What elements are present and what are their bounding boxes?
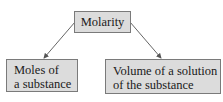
moles-line-1: Moles of — [14, 63, 77, 77]
moles-line-2: a substance — [14, 77, 77, 91]
volume-line-2: of the substance — [113, 78, 220, 92]
moles-node: Moles of a substance — [6, 59, 78, 92]
volume-node: Volume of a solution of the substance — [105, 59, 221, 94]
arrow-to-volume — [130, 22, 161, 58]
volume-line-1: Volume of a solution — [113, 64, 220, 78]
arrow-to-moles — [44, 22, 75, 58]
molarity-node: Molarity — [74, 11, 131, 33]
molarity-label: Molarity — [81, 15, 125, 29]
